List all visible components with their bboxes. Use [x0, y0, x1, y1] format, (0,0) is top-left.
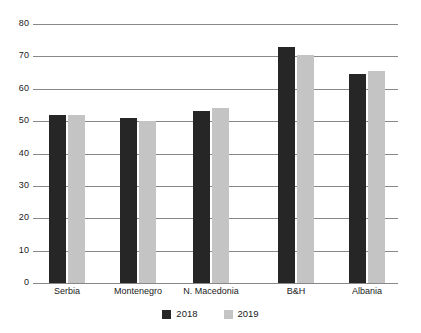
y-tick-label: 30: [3, 181, 29, 190]
bar-2019-b-h[interactable]: [297, 55, 314, 283]
bar-group: [278, 24, 314, 283]
y-tick-label: 40: [3, 149, 29, 158]
y-tick-label: 0: [3, 278, 29, 287]
bar-2018-albania[interactable]: [349, 74, 366, 283]
bar-chart: 01020304050607080 SerbiaMontenegroN. Mac…: [0, 0, 421, 333]
bar-2018-serbia[interactable]: [49, 115, 66, 283]
legend-item-2019[interactable]: 2019: [224, 309, 259, 319]
legend-swatch-icon: [162, 310, 171, 319]
y-axis: 01020304050607080: [0, 24, 29, 283]
bar-group: [49, 24, 85, 283]
bar-2018-b-h[interactable]: [278, 47, 295, 283]
bar-group: [193, 24, 229, 283]
bar-group: [349, 24, 385, 283]
bar-2019-albania[interactable]: [368, 71, 385, 283]
y-tick-label: 20: [3, 213, 29, 222]
x-tick-label-albania: Albania: [352, 285, 382, 297]
bars-layer: [33, 24, 398, 283]
bar-2019-montenegro[interactable]: [139, 121, 156, 283]
y-tick-label: 80: [3, 19, 29, 28]
legend-item-2018[interactable]: 2018: [162, 309, 197, 319]
legend-label: 2018: [176, 309, 197, 319]
bar-2019-n-macedonia[interactable]: [212, 108, 229, 283]
legend-label: 2019: [238, 309, 259, 319]
y-tick-label: 70: [3, 51, 29, 60]
legend-swatch-icon: [224, 310, 233, 319]
y-tick-label: 10: [3, 246, 29, 255]
x-tick-label-serbia: Serbia: [54, 285, 80, 297]
bar-2018-montenegro[interactable]: [120, 118, 137, 283]
y-tick-label: 60: [3, 84, 29, 93]
x-tick-label-n-macedonia: N. Macedonia: [183, 285, 239, 297]
gridline-0: [33, 283, 398, 284]
bar-group: [120, 24, 156, 283]
x-tick-label-montenegro: Montenegro: [114, 285, 162, 297]
y-tick-label: 50: [3, 116, 29, 125]
x-axis: SerbiaMontenegroN. MacedoniaB&HAlbania: [33, 285, 398, 301]
bar-2019-serbia[interactable]: [68, 115, 85, 283]
bar-2018-n-macedonia[interactable]: [193, 111, 210, 283]
x-tick-label-b-h: B&H: [287, 285, 306, 297]
chart-legend: 20182019: [0, 306, 421, 322]
